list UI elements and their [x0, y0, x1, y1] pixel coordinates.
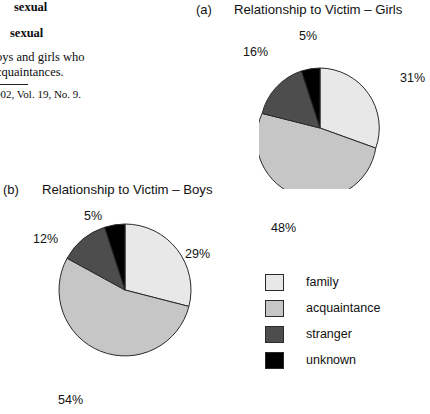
pct-label-boys-stranger: 12% [33, 232, 58, 246]
pct-label-boys-acquaintance: 54% [58, 393, 83, 407]
legend-swatch-acquaintance-icon [265, 300, 284, 317]
legend-item-stranger: stranger [265, 321, 380, 347]
legend-item-family: family [265, 269, 380, 295]
pct-label-boys-unknown: 5% [84, 209, 102, 223]
pie-graphic-boys [58, 223, 192, 357]
panel-letter-b: (b) [3, 182, 19, 197]
legend-label-family: family [306, 275, 339, 289]
pct-label-boys-family: 29% [185, 247, 210, 261]
legend-swatch-stranger-icon [265, 326, 284, 343]
chart-legend: family acquaintance stranger unknown [265, 269, 380, 373]
legend-item-acquaintance: acquaintance [265, 295, 380, 321]
chart-title-boys: Relationship to Victim – Boys [42, 182, 213, 197]
legend-item-unknown: unknown [265, 347, 380, 373]
legend-swatch-unknown-icon [265, 352, 284, 369]
legend-label-acquaintance: acquaintance [306, 301, 380, 315]
figure-page: sexual sexual oys and girls who cquainta… [0, 0, 430, 414]
legend-label-unknown: unknown [306, 353, 356, 367]
legend-label-stranger: stranger [306, 327, 352, 341]
legend-swatch-family-icon [265, 274, 284, 291]
